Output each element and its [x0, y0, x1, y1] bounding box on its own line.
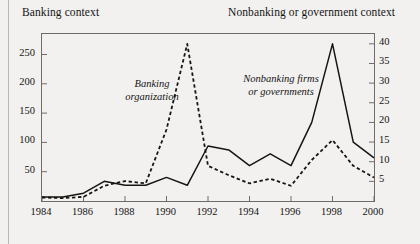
header-banking-context: Banking context [22, 6, 99, 18]
right-axis-label: 25 [379, 95, 419, 106]
right-axis-label: 35 [379, 55, 419, 66]
annotation-banking-organization-line2: organization [110, 91, 194, 104]
right-axis-label: 15 [379, 134, 419, 145]
annotation-nonbanking-firms-line2: or governments [228, 86, 334, 99]
x-axis-label: 1988 [102, 206, 146, 217]
x-axis-label: 1994 [227, 206, 271, 217]
left-axis-label: 100 [0, 134, 35, 145]
left-axis-label: 200 [0, 76, 35, 87]
x-axis-label: 1984 [19, 206, 63, 217]
left-axis-label: 150 [0, 105, 35, 116]
figure-page: Banking context Nonbanking or government… [0, 0, 420, 244]
series-line-2 [42, 44, 374, 197]
series-line-1 [42, 44, 374, 198]
right-axis-label: 5 [379, 173, 419, 184]
chart-plot-area [42, 34, 374, 201]
x-axis-label: 1992 [185, 206, 229, 217]
x-axis-label: 1990 [144, 206, 188, 217]
x-axis-label: 2000 [351, 206, 395, 217]
x-axis-label: 1996 [268, 206, 312, 217]
annotation-banking-organization-line1: Banking [110, 78, 194, 91]
right-axis-label: 40 [379, 36, 419, 47]
right-axis-label: 10 [379, 154, 419, 165]
left-axis-label: 250 [0, 47, 35, 58]
annotation-nonbanking-firms-line1: Nonbanking firms [228, 73, 334, 86]
x-axis-label: 1986 [61, 206, 105, 217]
left-axis-label: 50 [0, 164, 35, 175]
right-axis-label: 30 [379, 75, 419, 86]
plot-frame [41, 33, 375, 202]
annotation-nonbanking-firms: Nonbanking firms or governments [228, 73, 334, 98]
header-nonbanking-context: Nonbanking or government context [228, 6, 395, 18]
annotation-banking-organization: Banking organization [110, 78, 194, 103]
x-axis-label: 1998 [310, 206, 354, 217]
page-margin-rule [8, 0, 9, 244]
right-axis-label: 20 [379, 114, 419, 125]
